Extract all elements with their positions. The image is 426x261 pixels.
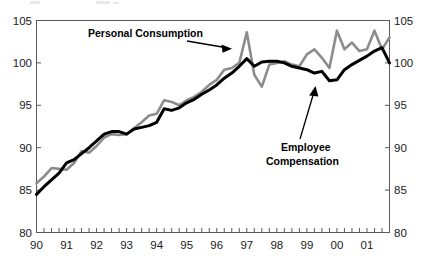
y-tick-left-105: 105 (13, 15, 32, 27)
top-edge-scan-artifact (30, 1, 119, 4)
y-tick-left-80: 80 (19, 227, 32, 239)
x-axis-labels: 909192939495969798990001 (30, 239, 373, 251)
y-tick-right-100: 100 (394, 57, 413, 69)
x-tick-label-96: 96 (210, 239, 223, 251)
y-axis-labels-right: 105 100 95 90 85 80 (394, 15, 413, 239)
employee-compensation-arrow-head (309, 86, 318, 96)
x-tick-label-98: 98 (270, 239, 283, 251)
x-tick-label-90: 90 (30, 239, 43, 251)
employee-compensation-label-line2: Compensation (266, 155, 339, 167)
y-axis-labels-left: 105 100 95 90 85 80 (13, 15, 32, 239)
employee-compensation-annotation: Employee Compensation (266, 86, 339, 167)
plot-axes (36, 20, 390, 233)
y-tick-left-85: 85 (19, 184, 32, 196)
personal-consumption-annotation: Personal Consumption (88, 27, 232, 53)
x-tick-label-01: 01 (361, 239, 374, 251)
y-tick-right-105: 105 (394, 15, 413, 27)
y-tick-right-90: 90 (394, 142, 407, 154)
x-tick-label-95: 95 (180, 239, 193, 251)
personal-consumption-label: Personal Consumption (88, 27, 203, 39)
x-tick-label-93: 93 (120, 239, 133, 251)
y-axis-ticks (36, 21, 390, 233)
chart-container: 105 100 95 90 85 80 105 100 95 90 85 80 … (0, 0, 426, 261)
line-chart: 105 100 95 90 85 80 105 100 95 90 85 80 … (0, 0, 426, 261)
y-tick-right-80: 80 (394, 227, 407, 239)
x-tick-label-91: 91 (60, 239, 73, 251)
y-tick-left-90: 90 (19, 142, 32, 154)
x-tick-label-94: 94 (150, 239, 163, 251)
x-tick-label-92: 92 (90, 239, 103, 251)
series-employee-compensation (37, 48, 390, 195)
x-axis-ticks (37, 228, 390, 233)
employee-compensation-label-line1: Employee (281, 141, 331, 153)
employee-compensation-arrow-line (300, 92, 314, 139)
y-tick-left-100: 100 (13, 57, 32, 69)
x-tick-label-00: 00 (331, 239, 344, 251)
y-tick-right-85: 85 (394, 184, 407, 196)
y-tick-left-95: 95 (19, 99, 32, 111)
y-tick-right-95: 95 (394, 99, 407, 111)
x-tick-label-97: 97 (240, 239, 253, 251)
x-tick-label-99: 99 (300, 239, 313, 251)
personal-consumption-arrow-head (222, 44, 233, 52)
